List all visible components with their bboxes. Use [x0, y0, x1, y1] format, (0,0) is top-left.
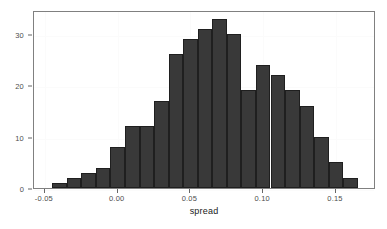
- histogram-bar: [271, 75, 286, 188]
- x-tick-mark: [189, 189, 190, 193]
- histogram-bar: [154, 101, 169, 188]
- histogram-bar: [169, 54, 184, 188]
- histogram-bar: [256, 65, 271, 188]
- histogram-bar: [81, 173, 96, 188]
- histogram-bar: [329, 162, 344, 188]
- histogram-bar: [314, 137, 329, 188]
- histogram-bar: [67, 178, 82, 188]
- histogram-bar: [285, 90, 300, 188]
- y-tick-mark: [28, 86, 32, 87]
- histogram-bar: [212, 19, 227, 189]
- y-tick-label: 30: [15, 30, 24, 39]
- x-tick-mark: [262, 189, 263, 193]
- y-axis: 0102030: [0, 11, 33, 189]
- x-axis-title: spread: [33, 206, 375, 216]
- histogram-bar: [227, 34, 242, 188]
- x-tick-mark: [44, 189, 45, 193]
- y-tick-mark: [28, 34, 32, 35]
- x-tick-mark: [335, 189, 336, 193]
- histogram-bar: [343, 178, 358, 188]
- x-axis: -0.050.000.050.100.15: [33, 189, 375, 207]
- y-tick-label: 20: [15, 82, 24, 91]
- histogram-screenshot: 0102030 -0.050.000.050.100.15 spread: [0, 0, 387, 229]
- y-tick-mark: [28, 137, 32, 138]
- histogram-bar: [198, 29, 213, 188]
- bars-layer: [34, 12, 374, 188]
- x-tick-label: 0.00: [109, 194, 124, 203]
- x-tick-label: 0.10: [254, 194, 269, 203]
- histogram-bar: [300, 106, 315, 188]
- x-tick-label: -0.05: [35, 194, 53, 203]
- histogram-bar: [96, 168, 111, 189]
- histogram-bar: [110, 147, 125, 188]
- y-tick-label: 0: [20, 185, 24, 194]
- y-tick-label: 10: [15, 133, 24, 142]
- x-tick-label: 0.05: [182, 194, 197, 203]
- histogram-bar: [140, 126, 155, 188]
- plot-panel: [33, 11, 375, 189]
- histogram-bar: [52, 183, 67, 188]
- histogram-bar: [183, 39, 198, 188]
- x-tick-label: 0.15: [327, 194, 342, 203]
- x-tick-mark: [117, 189, 118, 193]
- y-tick-mark: [28, 189, 32, 190]
- histogram-bar: [241, 90, 256, 188]
- histogram-bar: [125, 126, 140, 188]
